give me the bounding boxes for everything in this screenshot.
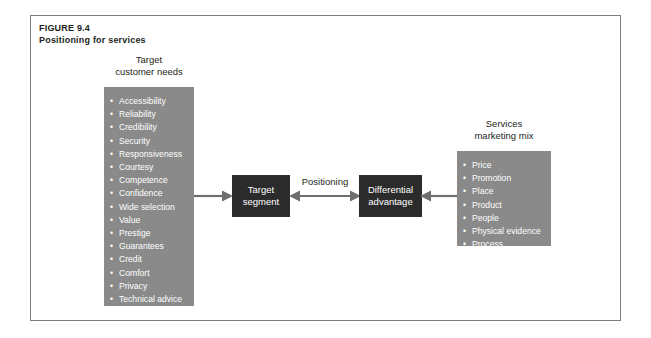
list-item: Credit: [108, 253, 194, 266]
customer-needs-heading-line1: Target: [104, 54, 194, 66]
list-item: Process: [461, 238, 551, 251]
list-item: Promotion: [461, 172, 551, 185]
list-item: Prestige: [108, 227, 194, 240]
target-segment-box: Target segment: [232, 175, 290, 217]
differential-advantage-line2: advantage: [368, 196, 413, 208]
list-item: Physical evidence: [461, 225, 551, 238]
list-item: Guarantees: [108, 240, 194, 253]
customer-needs-heading: Target customer needs: [104, 54, 194, 77]
target-customer-needs-panel: Accessibility Reliability Credibility Se…: [104, 87, 194, 306]
differential-advantage-line1: Differential: [368, 184, 413, 196]
customer-needs-heading-line2: customer needs: [104, 66, 194, 78]
figure-number: FIGURE 9.4: [39, 22, 146, 34]
list-item: Confidence: [108, 187, 194, 200]
list-item: Security: [108, 135, 194, 148]
list-item: Comfort: [108, 267, 194, 280]
list-item: Courtesy: [108, 161, 194, 174]
figure-frame: FIGURE 9.4 Positioning for services Targ…: [30, 15, 621, 321]
list-item: Value: [108, 214, 194, 227]
list-item: Credibility: [108, 121, 194, 134]
list-item: Speed: [108, 306, 194, 319]
arrow-right-icon: [194, 189, 234, 203]
target-segment-line1: Target: [243, 184, 279, 196]
positioning-label: Positioning: [293, 176, 357, 187]
marketing-mix-list: Price Promotion Place Product People Phy…: [461, 159, 551, 251]
customer-needs-list: Accessibility Reliability Credibility Se…: [108, 95, 194, 319]
figure-title: Positioning for services: [39, 34, 146, 46]
list-item: Responsiveness: [108, 148, 194, 161]
marketing-mix-heading-line2: marketing mix: [457, 130, 551, 142]
list-item: Wide selection: [108, 201, 194, 214]
arrow-double-horizontal-icon: [289, 189, 361, 203]
list-item: Technical advice: [108, 293, 194, 306]
list-item: Privacy: [108, 280, 194, 293]
list-item: Reliability: [108, 108, 194, 121]
list-item: Product: [461, 199, 551, 212]
arrow-left-icon: [420, 189, 459, 203]
differential-advantage-box: Differential advantage: [359, 175, 422, 217]
services-marketing-mix-panel: Price Promotion Place Product People Phy…: [457, 151, 551, 246]
marketing-mix-heading-line1: Services: [457, 118, 551, 130]
list-item: Competence: [108, 174, 194, 187]
list-item: Accessibility: [108, 95, 194, 108]
figure-caption: FIGURE 9.4 Positioning for services: [39, 22, 146, 46]
target-segment-line2: segment: [243, 196, 279, 208]
list-item: Price: [461, 159, 551, 172]
marketing-mix-heading: Services marketing mix: [457, 118, 551, 141]
list-item: People: [461, 212, 551, 225]
list-item: Place: [461, 185, 551, 198]
